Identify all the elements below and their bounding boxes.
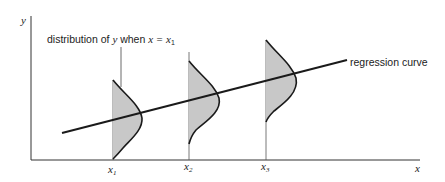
distribution-x2	[189, 52, 219, 160]
distribution-x1	[113, 80, 142, 160]
tick-label-x1: x1	[107, 163, 116, 177]
tick-label-x2: x2	[183, 160, 193, 174]
tick-label-x3: x3	[260, 160, 270, 174]
y-axis-label: y	[20, 14, 26, 26]
distribution-x3	[266, 40, 296, 160]
regression-diagram: y x regression curve distribution of y w…	[0, 0, 445, 182]
x-axis-label: x	[414, 162, 420, 174]
regression-label: regression curve	[350, 56, 428, 68]
distribution-annotation: distribution of y when x = x1	[47, 33, 175, 46]
density-fill-x2	[189, 61, 219, 144]
density-fill-x3	[266, 40, 296, 122]
